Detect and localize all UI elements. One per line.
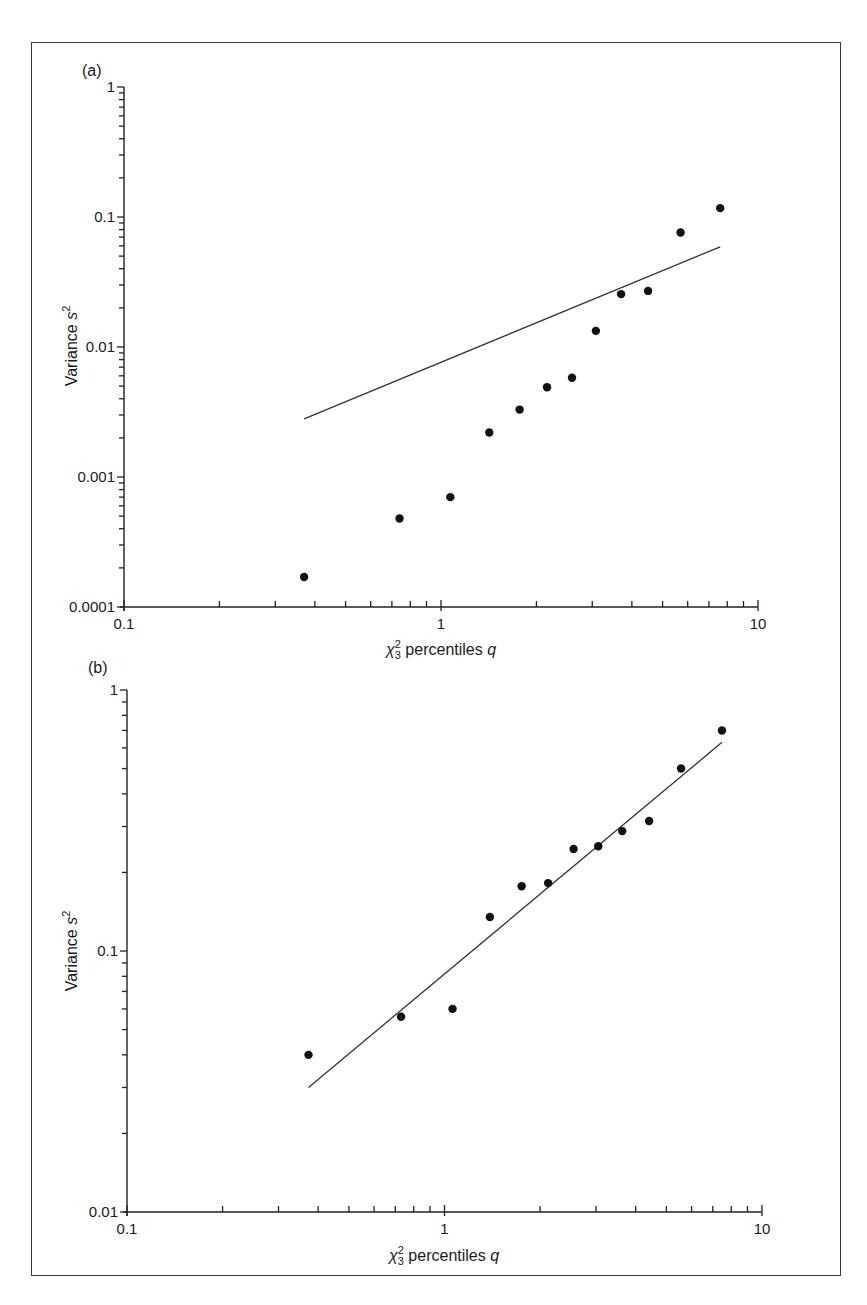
x-tick-label: 1	[437, 615, 445, 632]
data-point	[304, 1051, 312, 1059]
x-axis-title-a: χ23 percentiles q	[384, 638, 496, 661]
panel-label-b: (b)	[88, 659, 108, 676]
data-point	[568, 374, 576, 382]
fit-line	[304, 247, 720, 419]
data-point	[543, 383, 551, 391]
data-point	[618, 827, 626, 835]
data-point	[544, 879, 552, 887]
data-point	[515, 405, 523, 413]
data-point	[397, 1013, 405, 1021]
data-point	[677, 764, 685, 772]
y-tick-label: 0.001	[77, 468, 115, 485]
figure-canvas: (a) 0.00010.0010.010.11 0.1110 Variance …	[0, 0, 867, 1305]
data-point	[569, 845, 577, 853]
data-point	[645, 817, 653, 825]
y-tick-label: 0.1	[94, 208, 115, 225]
y-axis-title-b: Variance s2	[60, 911, 80, 992]
data-point	[486, 913, 494, 921]
x-tick-label: 1	[440, 1220, 448, 1237]
x-tick-label: 0.1	[117, 1220, 138, 1237]
data-point	[485, 428, 493, 436]
data-point	[592, 327, 600, 335]
x-tick-label: 0.1	[114, 615, 135, 632]
data-point	[517, 882, 525, 890]
y-tick-label: 1	[110, 681, 118, 698]
data-point	[716, 204, 724, 212]
y-tick-label: 0.01	[89, 1203, 118, 1220]
chart-panel-b: (b) 0.010.11 0.1110 Variance s2 χ23 perc…	[60, 659, 770, 1267]
reference-line-b	[309, 742, 722, 1087]
y-axis-title-a: Variance s2	[60, 306, 80, 387]
y-tick-label: 0.01	[86, 338, 115, 355]
data-point	[617, 290, 625, 298]
y-tick-label: 0.0001	[69, 598, 115, 615]
chart-panel-a: (a) 0.00010.0010.010.11 0.1110 Variance …	[60, 62, 766, 661]
x-axis-a: 0.1110	[114, 600, 767, 632]
data-point	[718, 726, 726, 734]
fit-line	[309, 742, 722, 1087]
y-tick-label: 1	[107, 78, 115, 95]
x-axis-title-b: χ23 percentiles q	[387, 1244, 499, 1267]
data-points-b	[304, 726, 726, 1059]
data-point	[644, 287, 652, 295]
data-point	[594, 842, 602, 850]
data-point	[395, 514, 403, 522]
data-point	[448, 1005, 456, 1013]
x-tick-label: 10	[754, 1220, 771, 1237]
y-tick-label: 0.1	[97, 942, 118, 959]
x-tick-label: 10	[750, 615, 767, 632]
data-point	[676, 228, 684, 236]
y-axis-b: 0.010.11	[89, 681, 127, 1220]
data-point	[300, 573, 308, 581]
reference-line-a	[304, 247, 720, 419]
panel-label-a: (a)	[82, 62, 102, 79]
data-point	[446, 493, 454, 501]
data-points-a	[300, 204, 724, 581]
x-axis-b: 0.1110	[117, 1205, 771, 1237]
